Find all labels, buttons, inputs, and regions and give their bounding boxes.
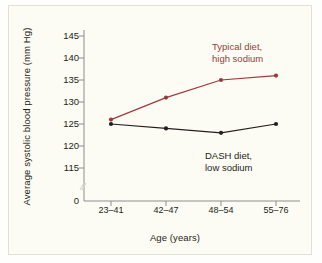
chart-figure: 145 140 135 130 125 120 115 0 23–41 42–4… <box>0 0 322 263</box>
series-annotation-typical-diet-line2: high sodium <box>212 53 263 65</box>
series-line-typical-diet <box>111 76 276 120</box>
x-tick-label: 42–47 <box>139 205 193 215</box>
x-axis-tick-labels: 23–41 42–47 48–54 55–76 <box>0 205 322 223</box>
y-axis-title: Average systolic blood pressure (mm Hg) <box>21 30 32 206</box>
y-axis-ticks <box>79 36 84 168</box>
y-tick-label: 115 <box>49 163 79 173</box>
series-annotation-typical-diet-line1: Typical diet, <box>212 41 263 53</box>
axis-break-icon <box>80 183 86 190</box>
y-tick-label: 145 <box>49 31 79 41</box>
series-annotation-typical-diet: Typical diet, high sodium <box>212 41 263 64</box>
series-line-dash-diet <box>111 124 276 133</box>
y-tick-label: 120 <box>49 141 79 151</box>
series-markers-typical-diet <box>109 74 278 122</box>
x-tick-label: 55–76 <box>249 205 303 215</box>
y-tick-label: 135 <box>49 75 79 85</box>
series-markers-dash-diet <box>109 122 278 135</box>
x-tick-label: 23–41 <box>84 205 138 215</box>
x-axis-title: Age (years) <box>60 232 290 243</box>
series-annotation-dash-diet-line1: DASH diet, <box>205 150 253 162</box>
y-tick-label: 125 <box>49 119 79 129</box>
y-tick-label: 130 <box>49 97 79 107</box>
y-tick-label: 140 <box>49 53 79 63</box>
x-tick-label: 48–54 <box>194 205 248 215</box>
series-annotation-dash-diet-line2: low sodium <box>205 162 253 174</box>
series-annotation-dash-diet: DASH diet, low sodium <box>205 150 253 173</box>
